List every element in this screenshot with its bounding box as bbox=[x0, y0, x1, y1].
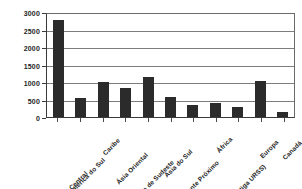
x-axis-category-label: Oriente Próximo bbox=[179, 159, 221, 189]
bar-slot bbox=[47, 14, 69, 117]
x-axis-category-label: América do Sul bbox=[67, 156, 106, 189]
x-axis-category-label: CEI (antiga URSS) bbox=[222, 163, 268, 189]
x-axis-category-label: Canadá bbox=[281, 139, 302, 161]
bar-slot bbox=[92, 14, 114, 117]
bar-slot bbox=[182, 14, 204, 117]
bar[interactable] bbox=[277, 112, 288, 117]
bar-slot bbox=[159, 14, 181, 117]
bar[interactable] bbox=[210, 103, 221, 117]
bar-slot bbox=[204, 14, 226, 117]
x-axis-category-label: África bbox=[215, 135, 233, 153]
bar[interactable] bbox=[75, 98, 86, 117]
chart-screenshot: 300025002000150010005000 México e Am. Ce… bbox=[0, 0, 302, 189]
bar[interactable] bbox=[98, 82, 109, 117]
bar[interactable] bbox=[187, 105, 198, 117]
bar-slot bbox=[272, 14, 294, 117]
bar-slot bbox=[137, 14, 159, 117]
bar[interactable] bbox=[143, 77, 154, 117]
y-axis-tick-label: 2500 bbox=[24, 27, 40, 34]
y-axis-tick-label: 0 bbox=[36, 115, 40, 122]
y-axis: 300025002000150010005000 bbox=[0, 0, 46, 132]
y-axis-tick-label: 500 bbox=[28, 97, 40, 104]
y-axis-tick-label: 1500 bbox=[24, 62, 40, 69]
bar[interactable] bbox=[232, 107, 243, 118]
x-axis-category-label: Ásia Oriental bbox=[115, 151, 149, 185]
y-axis-tick-label: 2000 bbox=[24, 45, 40, 52]
bar-slot bbox=[249, 14, 271, 117]
bar[interactable] bbox=[53, 20, 64, 117]
x-axis-category-label: Europa bbox=[259, 138, 280, 159]
bar-slot bbox=[69, 14, 91, 117]
bar[interactable] bbox=[165, 97, 176, 117]
plot-area bbox=[46, 13, 295, 118]
y-axis-tick-label: 1000 bbox=[24, 80, 40, 87]
bars-layer bbox=[47, 14, 294, 117]
x-axis-category-label: Caribe bbox=[101, 137, 121, 157]
y-axis-tick-label: 3000 bbox=[24, 10, 40, 17]
bar-slot bbox=[227, 14, 249, 117]
x-axis-labels: México e Am. CentralAmérica do SulCaribe… bbox=[46, 122, 295, 189]
bar[interactable] bbox=[255, 81, 266, 117]
bar[interactable] bbox=[120, 88, 131, 117]
bar-slot bbox=[114, 14, 136, 117]
